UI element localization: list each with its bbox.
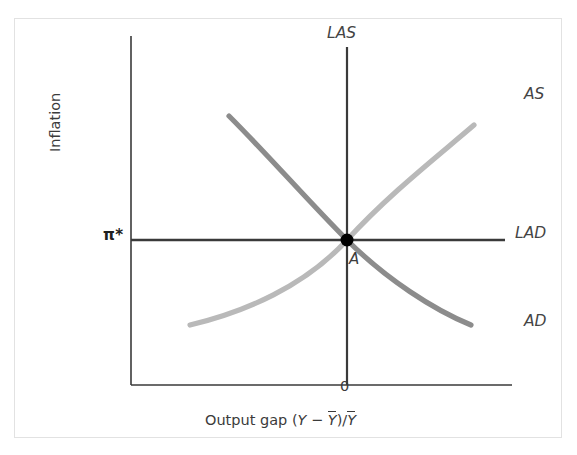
ad-curve-label: AD xyxy=(524,312,547,330)
figure-container: LAS AS LAD AD A π* 0 Inflation Output ga… xyxy=(0,0,577,455)
ad-curve xyxy=(229,116,471,325)
origin-label: 0 xyxy=(340,378,349,394)
equilibrium-point-a xyxy=(341,234,354,247)
target-inflation-label: π* xyxy=(103,226,123,244)
x-axis-label: Output gap (Y − Y)/Y xyxy=(205,412,356,428)
plot-area xyxy=(0,0,577,455)
x-axis-label-slash: )/ xyxy=(337,412,348,428)
las-curve-label: LAS xyxy=(327,24,356,42)
x-axis-label-ybar-2: Y xyxy=(347,412,356,428)
as-curve-label: AS xyxy=(524,85,544,103)
x-axis-label-minus: − xyxy=(306,412,327,428)
lad-curve-label: LAD xyxy=(515,224,546,242)
x-axis-label-prefix: Output gap ( xyxy=(205,412,298,428)
equilibrium-point-label: A xyxy=(349,250,359,268)
y-axis-label: Inflation xyxy=(47,93,63,152)
x-axis-label-ybar-1: Y xyxy=(328,412,337,428)
